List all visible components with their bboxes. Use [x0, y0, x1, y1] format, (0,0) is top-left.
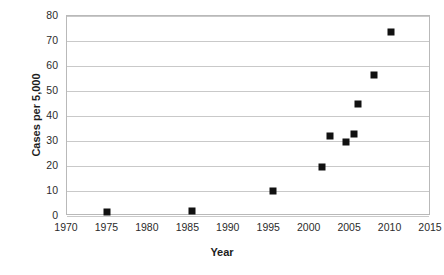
y-tick-label: 60 — [18, 59, 58, 71]
x-tick-label: 1995 — [257, 221, 280, 233]
y-tick-label: 80 — [18, 9, 58, 21]
x-tick-label: 1990 — [216, 221, 239, 233]
gridline — [67, 41, 429, 42]
gridline — [67, 141, 429, 142]
y-tick-label: 30 — [18, 134, 58, 146]
data-point — [343, 139, 350, 146]
gridline — [67, 191, 429, 192]
x-tick-label: 2010 — [378, 221, 401, 233]
gridline — [67, 66, 429, 67]
gridline — [67, 216, 429, 217]
y-tick-label: 10 — [18, 184, 58, 196]
data-point — [371, 71, 378, 78]
data-point — [318, 164, 325, 171]
x-tick-label: 1980 — [135, 221, 158, 233]
y-tick-label: 70 — [18, 34, 58, 46]
y-tick-label: 20 — [18, 159, 58, 171]
data-point — [355, 100, 362, 107]
scatter-chart: Cases per 5,000 01020304050607080 197019… — [0, 0, 444, 275]
data-point — [104, 209, 111, 216]
y-tick-label: 40 — [18, 109, 58, 121]
y-tick-label: 50 — [18, 84, 58, 96]
data-point — [351, 130, 358, 137]
gridline — [67, 116, 429, 117]
plot-area — [66, 15, 430, 215]
data-point — [189, 208, 196, 215]
x-tick-label: 2000 — [297, 221, 320, 233]
x-tick-label: 1970 — [54, 221, 77, 233]
x-tick-label: 2015 — [418, 221, 441, 233]
gridline — [67, 91, 429, 92]
x-tick-label: 1975 — [95, 221, 118, 233]
x-tick-label: 2005 — [337, 221, 360, 233]
y-tick-label: 0 — [18, 209, 58, 221]
gridline — [67, 16, 429, 17]
data-point — [326, 133, 333, 140]
data-point — [387, 29, 394, 36]
gridline — [67, 166, 429, 167]
x-axis-title: Year — [0, 246, 444, 258]
data-point — [270, 188, 277, 195]
x-tick-label: 1985 — [176, 221, 199, 233]
